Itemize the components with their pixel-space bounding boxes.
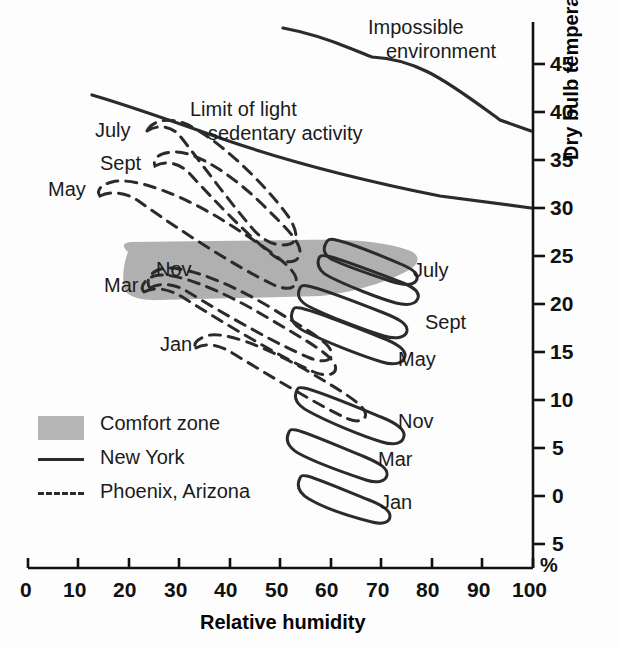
legend-swatch-comfort-zone xyxy=(38,416,84,440)
newyork-label-jan: Jan xyxy=(380,491,412,514)
y-tick-0: 0 xyxy=(552,484,564,508)
y-tick-25: 25 xyxy=(550,244,573,268)
x-tick-30: 30 xyxy=(164,578,187,602)
x-axis-title: Relative humidity xyxy=(200,611,366,634)
phoenix-label-mar: Mar xyxy=(104,274,138,297)
legend-line-phoenix xyxy=(38,492,84,495)
y-axis-title: Dry bulb temperature (°C) xyxy=(560,0,583,160)
x-tick-70: 70 xyxy=(366,578,389,602)
newyork-label-july: July xyxy=(413,259,449,282)
phoenix-label-jan: Jan xyxy=(160,333,192,356)
phoenix-label-may: May xyxy=(48,178,86,201)
impossible-environment-label-line1: Impossible xyxy=(368,16,464,38)
y-tick-15: 15 xyxy=(550,340,573,364)
phoenix-label-sept: Sept xyxy=(100,152,141,175)
limit-light-sedentary-label-line1: Limit of light xyxy=(190,98,297,120)
newyork-label-nov: Nov xyxy=(398,410,434,433)
x-tick-60: 60 xyxy=(315,578,338,602)
legend-label-new-york: New York xyxy=(100,446,185,469)
x-tick-80: 80 xyxy=(416,578,439,602)
x-unit-percent: % xyxy=(540,554,558,577)
phoenix-label-nov: Nov xyxy=(156,258,192,281)
limit-light-sedentary-curve xyxy=(92,95,531,208)
legend-label-phoenix: Phoenix, Arizona xyxy=(100,480,250,503)
x-tick-20: 20 xyxy=(113,578,136,602)
legend-label-comfort-zone: Comfort zone xyxy=(100,412,220,435)
x-tick-100: 100 xyxy=(512,578,547,602)
psychrometric-chart: 0 10 20 30 40 50 60 70 80 90 100 % Relat… xyxy=(0,0,620,647)
phoenix-label-july: July xyxy=(95,119,131,142)
newyork-label-sept: Sept xyxy=(425,311,466,334)
newyork-label-may: May xyxy=(398,348,436,371)
x-tick-0: 0 xyxy=(20,578,32,602)
y-tick-10: 10 xyxy=(550,388,573,412)
impossible-environment-label-line2: environment xyxy=(386,40,496,62)
y-tick-30: 30 xyxy=(550,196,573,220)
y-tick-5: 5 xyxy=(552,436,564,460)
y-tick-neg5: 5 xyxy=(552,532,564,556)
x-tick-40: 40 xyxy=(214,578,237,602)
newyork-label-mar: Mar xyxy=(378,448,412,471)
legend-line-new-york xyxy=(38,458,84,461)
x-tick-50: 50 xyxy=(265,578,288,602)
chart-canvas xyxy=(0,0,620,647)
limit-light-sedentary-label-line2: sedentary activity xyxy=(208,122,363,144)
x-tick-10: 10 xyxy=(63,578,86,602)
y-tick-20: 20 xyxy=(550,292,573,316)
x-tick-90: 90 xyxy=(467,578,490,602)
